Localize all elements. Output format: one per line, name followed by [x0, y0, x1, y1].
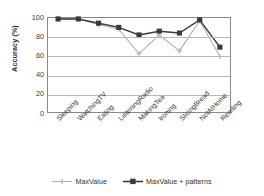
chart-legend: MaxValueMaxValue + patterns [0, 172, 264, 190]
chart-figure: Accuracy (%) 100806040200 SleepingWatchi… [0, 0, 264, 196]
data-point-marker [217, 45, 222, 50]
y-axis-title: Accuracy (%) [10, 9, 19, 89]
y-axis-tick-label: 20 [22, 90, 44, 97]
data-point-marker [197, 17, 202, 22]
data-point-marker [177, 30, 182, 35]
legend-square-marker-icon [123, 177, 143, 186]
legend-label: MaxValue [75, 177, 106, 186]
y-axis-tick-label: 0 [22, 110, 44, 117]
data-point-marker [96, 21, 101, 26]
legend-item[interactable]: MaxValue [52, 177, 106, 186]
x-axis-tick-labels: SleepingWatchingTVEatingListeningRadioMa… [47, 115, 231, 171]
data-point-marker [116, 25, 121, 30]
legend-label: MaxValue + patterns [146, 177, 212, 186]
data-point-marker [76, 16, 81, 21]
grid-line [48, 76, 230, 77]
series-2 [56, 16, 223, 49]
y-axis-tick-label: 80 [22, 33, 44, 40]
legend-item[interactable]: MaxValue + patterns [123, 177, 212, 186]
y-axis-tick-label: 40 [22, 71, 44, 78]
data-point-marker [157, 29, 162, 34]
y-axis-tick-label: 100 [22, 14, 44, 21]
y-axis-tick-label: 60 [22, 52, 44, 59]
data-point-marker [56, 16, 61, 21]
grid-line [48, 56, 230, 57]
y-axis-tick-labels: 100806040200 [20, 0, 44, 196]
grid-line [48, 37, 230, 38]
legend-plus-marker-icon [52, 177, 72, 186]
